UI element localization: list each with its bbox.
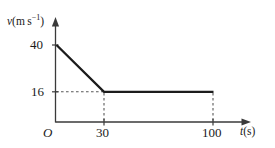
x-tick-label-100: 100 — [202, 126, 222, 139]
x-axis-label: t(s) — [240, 126, 255, 138]
y-axis-label-exponent: −1 — [32, 13, 41, 22]
y-axis-label: v(m s−1) — [7, 14, 44, 27]
x-tick-label-30: 30 — [96, 126, 109, 139]
velocity-time-graph-figure: v(m s−1) t(s) O 40 16 30 100 — [0, 0, 275, 148]
x-axis-label-unit: (s) — [243, 125, 255, 137]
y-axis-label-unit-close: ) — [40, 15, 44, 27]
y-tick-label-40: 40 — [30, 38, 43, 51]
velocity-series-line — [57, 45, 214, 92]
origin-label: O — [43, 126, 52, 139]
y-axis-arrow-icon — [52, 17, 59, 27]
y-tick-label-16: 16 — [31, 85, 44, 98]
y-axis-label-unit-open: (m s — [12, 15, 32, 27]
